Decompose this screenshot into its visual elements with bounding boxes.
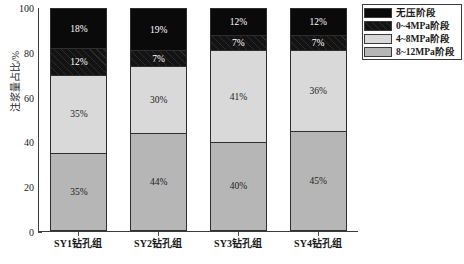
bar-segment-4-8: 35% — [50, 75, 107, 153]
stacked-bar-chart: 注浆量占比/% 100 80 60 40 20 0 18% 12% 35% 35… — [0, 0, 464, 264]
bar-segment-0-4: 7% — [210, 35, 267, 51]
bar-sy4: 12% 7% 36% 45% — [290, 8, 347, 231]
legend-item-4-8: 4~8MPa阶段 — [364, 32, 459, 45]
legend-swatch-4-8-icon — [364, 34, 392, 44]
chart-legend: 无压阶段 0~4MPa阶段 4~8MPa阶段 8~12MPa阶段 — [362, 4, 462, 60]
legend-label: 无压阶段 — [396, 8, 436, 18]
x-axis-label-sy3: SY3钻孔组 — [198, 238, 278, 250]
x-axis-label-sy4: SY4钻孔组 — [278, 238, 358, 250]
legend-label: 0~4MPa阶段 — [396, 21, 450, 31]
legend-item-0-4: 0~4MPa阶段 — [364, 19, 459, 32]
bar-sy2: 19% 7% 30% 44% — [130, 8, 187, 231]
y-tick-label: 100 — [8, 4, 34, 14]
bar-segment-0-4: 12% — [50, 48, 107, 75]
y-tick-label: 20 — [8, 183, 34, 193]
x-axis-tick — [238, 232, 239, 236]
bar-segment-0-4: 7% — [290, 35, 347, 51]
legend-swatch-0-4-icon — [364, 21, 392, 31]
legend-item-none: 无压阶段 — [364, 6, 459, 19]
legend-swatch-8-12-icon — [364, 47, 392, 57]
plot-area: 18% 12% 35% 35% 19% 7% 30% 44% 12% 7% 41… — [38, 8, 358, 232]
y-tick-label: 60 — [8, 94, 34, 104]
legend-label: 4~8MPa阶段 — [396, 34, 450, 44]
legend-item-8-12: 8~12MPa阶段 — [364, 45, 459, 58]
bar-sy1: 18% 12% 35% 35% — [50, 8, 107, 231]
y-tick-label: 80 — [8, 49, 34, 59]
bar-segment-8-12: 40% — [210, 142, 267, 231]
x-axis-label-sy2: SY2钻孔组 — [118, 238, 198, 250]
bar-segment-none: 12% — [210, 8, 267, 35]
x-axis-tick — [78, 232, 79, 236]
bar-segment-4-8: 30% — [130, 66, 187, 133]
bars-layer: 18% 12% 35% 35% 19% 7% 30% 44% 12% 7% 41… — [39, 8, 358, 231]
bar-segment-4-8: 36% — [290, 50, 347, 130]
y-axis-tick-labels: 100 80 60 40 20 0 — [4, 0, 34, 264]
bar-segment-none: 12% — [290, 8, 347, 35]
bar-segment-none: 18% — [50, 8, 107, 48]
y-tick-label: 0 — [8, 228, 34, 238]
bar-segment-4-8: 41% — [210, 50, 267, 141]
legend-label: 8~12MPa阶段 — [396, 47, 455, 57]
bar-sy3: 12% 7% 41% 40% — [210, 8, 267, 231]
x-axis-tick — [318, 232, 319, 236]
x-axis-labels: SY1钻孔组 SY2钻孔组 SY3钻孔组 SY4钻孔组 — [38, 238, 358, 250]
bar-segment-8-12: 45% — [290, 131, 347, 231]
legend-swatch-none-icon — [364, 8, 392, 18]
bar-segment-8-12: 35% — [50, 153, 107, 231]
y-tick-label: 40 — [8, 138, 34, 148]
bar-segment-8-12: 44% — [130, 133, 187, 231]
bar-segment-0-4: 7% — [130, 50, 187, 66]
x-axis-label-sy1: SY1钻孔组 — [38, 238, 118, 250]
x-axis-tick — [158, 232, 159, 236]
bar-segment-none: 19% — [130, 8, 187, 50]
